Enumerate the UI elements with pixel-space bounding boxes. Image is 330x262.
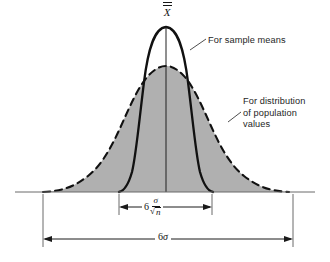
arrowhead-outer-right bbox=[284, 236, 293, 242]
dimension-label-inner: 6 σ √n bbox=[142, 196, 163, 217]
arrowhead-inner-right bbox=[203, 204, 212, 210]
arrowhead-inner-left bbox=[119, 204, 128, 210]
annotation-sample-means: For sample means bbox=[208, 35, 286, 47]
inner-coefficient: 6 bbox=[144, 201, 149, 212]
annotation-population-line-1: For distribution bbox=[243, 96, 305, 108]
dimension-label-outer: 6σ bbox=[155, 231, 171, 242]
annotation-population-line-3: values bbox=[243, 119, 305, 131]
outer-sigma-symbol: σ bbox=[163, 231, 168, 242]
leader-line-population bbox=[228, 112, 241, 122]
annotation-population-line-2: of population bbox=[243, 108, 305, 120]
inner-radicand-n: n bbox=[155, 207, 162, 217]
sampling-distribution-figure: X For sample means For distribution of p… bbox=[0, 0, 330, 262]
inner-numerator-sigma: σ bbox=[152, 196, 160, 207]
grand-mean-symbol: X bbox=[157, 7, 177, 18]
inner-denominator: √n bbox=[150, 207, 161, 218]
inner-fraction: σ √n bbox=[150, 196, 161, 217]
annotation-population-values: For distribution of population values bbox=[243, 96, 305, 131]
grand-mean-label: X bbox=[157, 2, 177, 18]
arrowhead-outer-left bbox=[43, 236, 52, 242]
leader-line-sample-means bbox=[190, 39, 206, 50]
